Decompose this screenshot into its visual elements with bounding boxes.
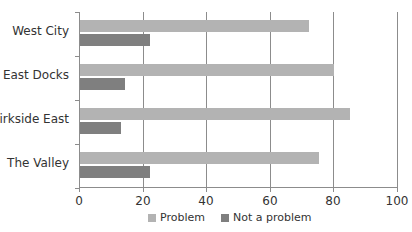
bar-not-a-problem-the-valley [80,166,150,178]
gridline [397,12,398,188]
x-tick-label: 40 [198,194,213,208]
x-tick [333,188,334,192]
y-tick [75,12,79,13]
bar-problem-the-valley [80,152,319,164]
x-tick [206,188,207,192]
x-tick-label: 100 [386,194,409,208]
y-tick [75,144,79,145]
legend: Problem Not a problem [148,211,312,224]
bar-not-a-problem-west-city [80,34,150,46]
x-tick [143,188,144,192]
plot-area [79,12,397,188]
x-tick-label: 60 [262,194,277,208]
legend-label-problem: Problem [160,211,205,224]
legend-label-not-a-problem: Not a problem [233,211,312,224]
gridline [333,12,334,188]
x-tick-label: 20 [135,194,150,208]
x-tick [397,188,398,192]
category-axis-labels: West City East Docks Kirkside East The V… [0,12,69,188]
x-tick [270,188,271,192]
y-tick [75,188,79,189]
bar-problem-kirkside-east [80,108,350,120]
category-label-kirkside-east: Kirkside East [0,112,69,126]
bar-problem-east-docks [80,64,334,76]
y-tick [75,100,79,101]
legend-item-not-a-problem: Not a problem [221,211,312,224]
legend-item-problem: Problem [148,211,205,224]
category-label-west-city: West City [12,24,69,38]
category-label-the-valley: The Valley [7,156,69,170]
bar-chart: West City East Docks Kirkside East The V… [0,0,412,232]
legend-swatch-problem [148,214,156,222]
bar-not-a-problem-kirkside-east [80,122,121,134]
bar-not-a-problem-east-docks [80,78,125,90]
bar-problem-west-city [80,20,309,32]
x-tick-label: 80 [325,194,340,208]
x-tick-label: 0 [75,194,83,208]
category-label-east-docks: East Docks [3,68,69,82]
x-axis [79,187,397,188]
x-tick [79,188,80,192]
legend-swatch-not-a-problem [221,214,229,222]
y-tick [75,56,79,57]
